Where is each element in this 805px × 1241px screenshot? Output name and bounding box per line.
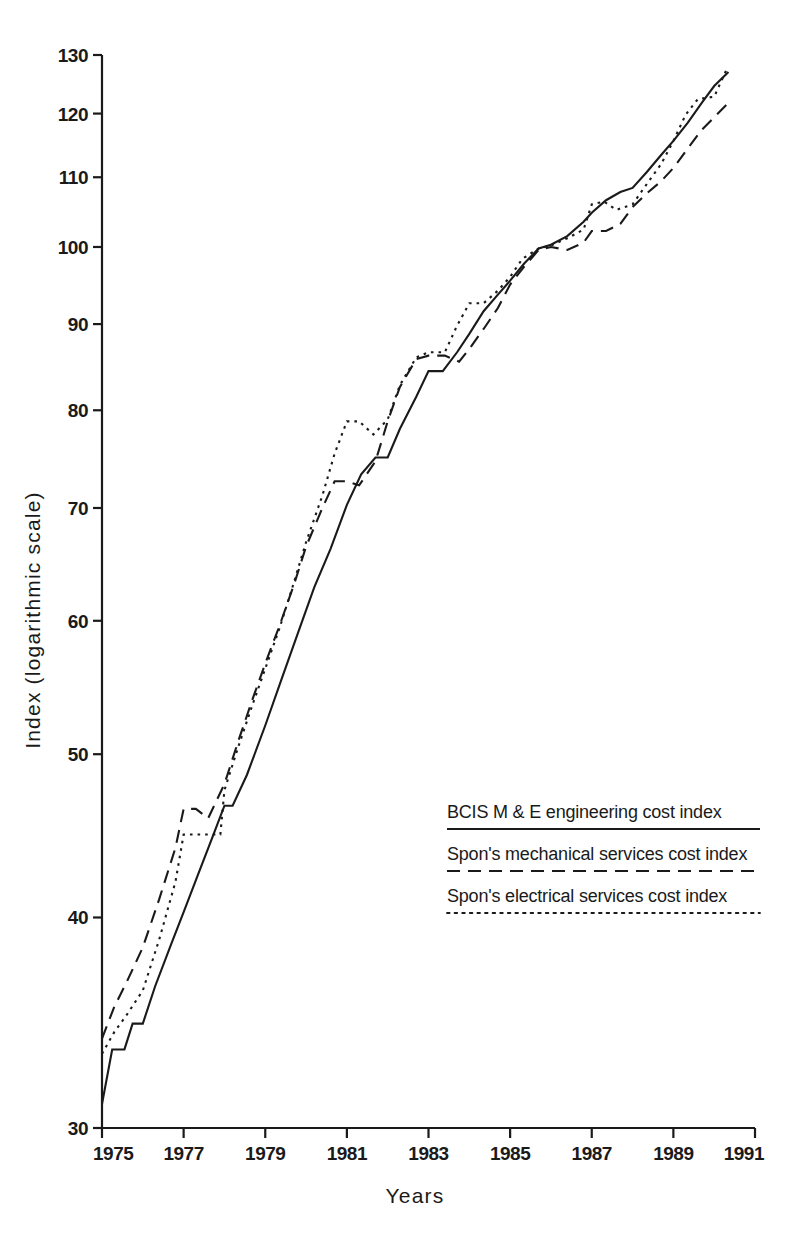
axes-group — [102, 55, 755, 1128]
x-tick-label: 1975 — [93, 1143, 134, 1164]
legend-label-1: Spon's mechanical services cost index — [447, 844, 747, 864]
y-tick-label: 60 — [68, 611, 88, 632]
y-tick-label: 50 — [68, 744, 88, 765]
y-tick-label: 120 — [58, 104, 88, 125]
legend-label-2: Spon's electrical services cost index — [447, 886, 727, 906]
series-line-0 — [102, 72, 728, 1104]
x-tick-label: 1981 — [327, 1143, 368, 1164]
x-axis-ticks: 197519771979198119831985198719891991 — [93, 1128, 765, 1164]
y-tick-label: 130 — [58, 45, 88, 66]
x-tick-label: 1977 — [163, 1143, 203, 1164]
x-axis-title: Years — [386, 1184, 445, 1207]
y-tick-label: 100 — [58, 237, 88, 258]
x-tick-label: 1987 — [572, 1143, 612, 1164]
y-tick-label: 90 — [68, 314, 88, 335]
legend-label-0: BCIS M & E engineering cost index — [447, 802, 722, 822]
y-tick-label: 70 — [68, 498, 88, 519]
y-tick-label: 110 — [59, 167, 88, 188]
series-line-2 — [102, 70, 726, 1054]
x-tick-label: 1983 — [408, 1143, 448, 1164]
y-axis-ticks: 30405060708090100110120130 — [58, 45, 102, 1139]
data-series-group — [102, 70, 728, 1104]
y-tick-label: 80 — [68, 400, 88, 421]
x-tick-label: 1989 — [653, 1143, 693, 1164]
chart-page: 30405060708090100110120130 1975197719791… — [0, 0, 805, 1241]
y-tick-label: 30 — [68, 1118, 88, 1139]
x-tick-label: 1985 — [490, 1143, 531, 1164]
x-tick-label: 1991 — [724, 1143, 765, 1164]
legend: BCIS M & E engineering cost indexSpon's … — [447, 802, 760, 913]
x-tick-label: 1979 — [245, 1143, 285, 1164]
y-axis-title: Index (logarithmic scale) — [21, 491, 44, 749]
y-tick-label: 40 — [68, 907, 88, 928]
line-chart: 30405060708090100110120130 1975197719791… — [0, 0, 805, 1241]
